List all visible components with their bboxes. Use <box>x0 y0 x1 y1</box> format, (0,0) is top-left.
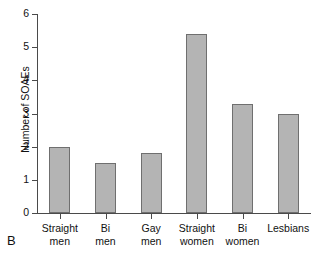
category-label-line-1: Bi <box>238 222 247 234</box>
x-axis-tick <box>243 214 244 219</box>
y-axis-tick: 1 <box>32 180 37 181</box>
x-axis-category-label: Straightmen <box>37 222 83 248</box>
bar <box>232 104 253 213</box>
y-axis-tick-label: 3 <box>23 107 29 119</box>
bar <box>49 147 70 213</box>
y-axis-tick: 4 <box>32 80 37 81</box>
category-label-line-2: men <box>83 235 129 248</box>
bar <box>141 153 162 213</box>
category-label-line-1: Bi <box>101 222 110 234</box>
x-axis-tick <box>106 214 107 219</box>
bar <box>186 34 207 213</box>
y-axis-tick: 5 <box>32 47 37 48</box>
bar <box>95 163 116 213</box>
x-axis-tick <box>197 214 198 219</box>
y-axis-tick: 3 <box>32 114 37 115</box>
x-axis-category-label: Straightwomen <box>174 222 220 248</box>
y-axis-tick-label: 2 <box>23 140 29 152</box>
x-axis-category-label: Lesbians <box>265 222 311 235</box>
plot-area: 0123456 StraightmenBimenGaymenStraightwo… <box>37 14 311 213</box>
x-axis-tick <box>288 214 289 219</box>
category-label-line-2: men <box>37 235 83 248</box>
y-axis-line <box>37 14 38 214</box>
panel-label: B <box>7 234 16 247</box>
y-axis-tick-label: 0 <box>23 206 29 218</box>
y-axis-tick-label: 5 <box>23 40 29 52</box>
x-axis-tick <box>151 214 152 219</box>
y-axis-tick: 2 <box>32 147 37 148</box>
y-axis-tick-label: 4 <box>23 73 29 85</box>
y-axis-tick: 6 <box>32 14 37 15</box>
category-label-line-2: men <box>128 235 174 248</box>
y-axis-tick: 0 <box>32 213 37 214</box>
bar <box>278 114 299 214</box>
x-axis-tick <box>60 214 61 219</box>
category-label-line-1: Lesbians <box>267 222 309 234</box>
x-axis-line <box>37 213 311 214</box>
bar-chart-figure: B Number of SOAEs 0123456 StraightmenBim… <box>0 0 321 260</box>
x-axis-category-label: Bimen <box>83 222 129 248</box>
x-axis-category-label: Biwomen <box>220 222 266 248</box>
y-axis-tick-label: 1 <box>23 173 29 185</box>
category-label-line-1: Straight <box>42 222 78 234</box>
category-label-line-2: women <box>174 235 220 248</box>
category-label-line-1: Gay <box>142 222 161 234</box>
category-label-line-1: Straight <box>179 222 215 234</box>
y-axis-tick-label: 6 <box>23 7 29 19</box>
category-label-line-2: women <box>220 235 266 248</box>
x-axis-category-label: Gaymen <box>128 222 174 248</box>
